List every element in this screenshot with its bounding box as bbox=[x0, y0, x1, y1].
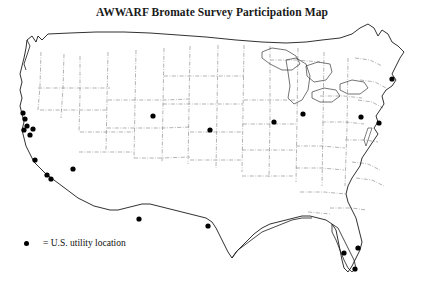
utility-location-marker bbox=[389, 76, 394, 81]
utility-location-marker bbox=[136, 216, 141, 221]
utility-location-marker bbox=[27, 132, 32, 137]
utility-location-marker bbox=[70, 166, 75, 171]
gulf-coast-outline bbox=[232, 218, 312, 258]
utility-location-marker bbox=[207, 127, 212, 132]
chesapeake-detail bbox=[364, 128, 372, 146]
legend: = U.S. utility location bbox=[24, 236, 126, 250]
utility-location-marker bbox=[341, 250, 346, 255]
utility-location-marker bbox=[32, 157, 37, 162]
utility-location-marker bbox=[376, 120, 381, 125]
utility-location-marker bbox=[300, 111, 305, 116]
us-national-outline bbox=[20, 24, 404, 272]
legend-label: = U.S. utility location bbox=[43, 238, 126, 248]
great-lakes bbox=[262, 48, 368, 104]
utility-location-marker bbox=[30, 126, 35, 131]
utility-location-marker bbox=[22, 116, 27, 121]
map-figure: AWWARF Bromate Survey Participation Map bbox=[0, 0, 424, 288]
utility-location-marker bbox=[205, 223, 210, 228]
utility-location-marker bbox=[44, 172, 49, 177]
utility-location-marker bbox=[358, 114, 363, 119]
utility-location-marker bbox=[355, 245, 360, 250]
utility-location-marker bbox=[21, 127, 26, 132]
utility-location-marker bbox=[271, 119, 276, 124]
utility-location-marker bbox=[48, 176, 53, 181]
utility-location-marker bbox=[20, 110, 25, 115]
utility-location-marker bbox=[150, 113, 155, 118]
utility-location-dot-icon bbox=[24, 241, 29, 246]
utility-location-marker bbox=[352, 266, 357, 271]
